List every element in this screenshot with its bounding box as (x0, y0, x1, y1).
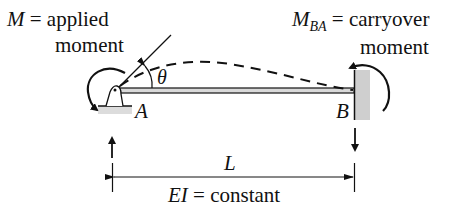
applied-moment-text: = applied (30, 7, 109, 31)
carryover-moment-label-line2: moment (360, 36, 429, 58)
carryover-moment-subscript: BA (310, 19, 327, 34)
carryover-moment-label: MBA = carryover (292, 8, 429, 33)
length-label: L (224, 152, 236, 174)
ei-symbol: EI (168, 183, 188, 207)
ei-constant-label: EI = constant (168, 184, 280, 206)
fixed-wall-b (355, 70, 371, 120)
applied-moment-symbol: M (7, 7, 25, 31)
applied-moment-label: M = applied (7, 8, 109, 30)
applied-moment-label-line2: moment (55, 34, 124, 56)
carryover-moment-symbol: M (292, 7, 310, 31)
carryover-moment-text: = carryover (332, 7, 430, 31)
theta-label: θ (157, 66, 167, 88)
beam (118, 88, 354, 93)
point-a-label: A (135, 100, 148, 122)
ei-text: = constant (193, 183, 280, 207)
deflected-shape-curve (120, 62, 353, 90)
point-b-label: B (336, 100, 349, 122)
